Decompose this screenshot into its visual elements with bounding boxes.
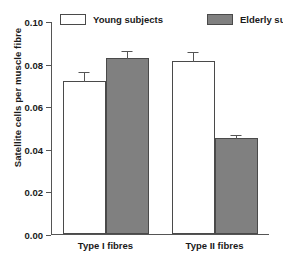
legend-item-young: Young subjects	[60, 14, 163, 25]
error-bar-line	[193, 52, 194, 63]
y-tick-label: 0.02	[25, 187, 44, 198]
error-bar-cap	[188, 52, 199, 53]
y-tick-mark	[46, 192, 51, 193]
legend-item-elderly: Elderly subjects	[207, 14, 283, 25]
y-axis-title: Satellite cells per muscle fibre	[12, 8, 23, 188]
error-bar-cap	[122, 51, 133, 52]
y-tick-label: 0.06	[25, 102, 44, 113]
bar-elderly	[215, 138, 258, 234]
bar-elderly	[106, 58, 149, 234]
legend-swatch-icon	[207, 14, 233, 25]
x-axis-line	[51, 234, 269, 235]
x-axis-category-label: Type I fibres	[78, 240, 133, 251]
error-bar-cap	[231, 135, 242, 136]
error-bar-line	[127, 51, 128, 60]
legend-swatch-icon	[60, 14, 86, 25]
y-axis-line	[51, 22, 52, 235]
y-tick-mark	[46, 107, 51, 108]
y-tick-label: 0.00	[25, 230, 44, 241]
y-tick-mark	[46, 150, 51, 151]
chart-legend: Young subjectsElderly subjects	[60, 14, 283, 25]
y-tick-label: 0.04	[25, 144, 44, 155]
plot-area: 0.000.020.040.060.080.10 Type I fibresTy…	[51, 22, 269, 235]
y-tick-mark	[46, 22, 51, 23]
y-tick-label: 0.08	[25, 59, 44, 70]
y-tick-mark	[46, 65, 51, 66]
legend-label: Elderly subjects	[240, 14, 283, 25]
y-tick-label: 0.10	[25, 17, 44, 28]
y-tick-mark	[46, 235, 51, 236]
legend-label: Young subjects	[93, 14, 163, 25]
bar-young	[172, 61, 215, 234]
x-axis-category-label: Type II fibres	[186, 240, 244, 251]
error-bar-line	[84, 72, 85, 82]
bar-chart-figure: Satellite cells per muscle fibre 0.000.0…	[0, 0, 283, 268]
error-bar-cap	[79, 72, 90, 73]
bar-young	[63, 81, 106, 234]
